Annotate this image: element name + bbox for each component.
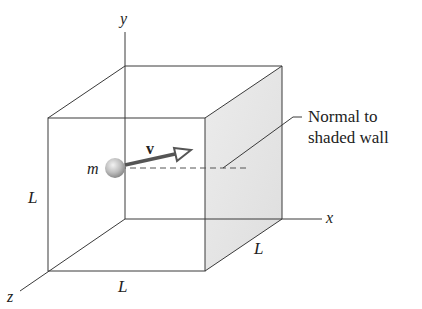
particle-sphere [105,158,125,178]
z-axis-label: z [6,288,14,305]
depth-edge-label: L [253,239,263,258]
cube-diagram: y x z L L L m v Normal to shaded wall [0,0,422,309]
z-axis [20,219,125,291]
y-axis-label: y [118,10,128,28]
callout-line-1: Normal to [308,107,377,126]
front-face [48,118,205,271]
callout-line-2: shaded wall [308,128,389,147]
diagram-canvas: y x z L L L m v Normal to shaded wall [0,0,422,309]
bottom-edge-label: L [117,277,127,296]
x-axis-label: x [325,209,333,226]
mass-label: m [87,160,99,177]
vertical-edge-label: L [27,188,37,207]
velocity-arrow [125,148,191,165]
velocity-label: v [146,140,154,157]
